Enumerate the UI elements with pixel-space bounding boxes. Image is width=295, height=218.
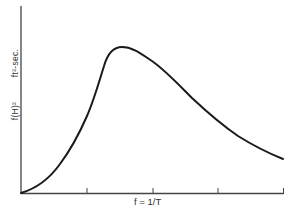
spectrum-chart: f(H)² ft²-sec. f = 1/T	[0, 0, 295, 218]
chart-plot-area	[0, 0, 295, 218]
spectrum-curve	[21, 47, 283, 193]
x-axis-label: f = 1/T	[134, 196, 161, 207]
y-axis-units: ft²-sec.	[10, 33, 22, 93]
